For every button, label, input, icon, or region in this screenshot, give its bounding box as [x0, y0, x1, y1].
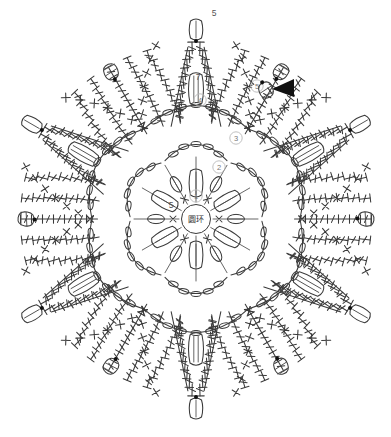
double-crochet: [58, 150, 72, 163]
double-crochet: [328, 215, 339, 223]
double-crochet: [47, 255, 60, 266]
double-crochet: [253, 103, 266, 117]
single-crochet: [140, 347, 148, 355]
double-crochet: [359, 235, 371, 245]
count-label-c_top: 5: [212, 8, 217, 18]
double-crochet: [307, 89, 321, 103]
single-crochet: [116, 109, 125, 118]
single-crochet: [322, 228, 329, 235]
chain-stitch: [236, 266, 247, 276]
single-crochet: [143, 69, 151, 77]
double-crochet: [110, 350, 123, 364]
single-crochet: [362, 163, 370, 171]
double-crochet: [348, 193, 360, 203]
tip-chain-loop: [348, 113, 373, 135]
round-label-text-1: 1: [194, 192, 198, 201]
star-point: [71, 278, 254, 419]
crochet-chart-canvas: 圆环12345575 圆环 ① ② ③ ④ ⑤ 5 7 5: [0, 0, 391, 437]
double-crochet: [286, 338, 299, 352]
single-crochet: [241, 69, 249, 77]
double-crochet: [59, 172, 72, 183]
chain-stitch: [231, 116, 242, 124]
double-crochet: [269, 350, 282, 364]
double-crochet: [121, 331, 134, 345]
single-crochet: [90, 330, 99, 339]
center-ring: 圆环: [182, 205, 211, 234]
double-crochet: [121, 93, 134, 107]
chain-stitch: [231, 313, 242, 321]
petal-chain-loop: [189, 333, 204, 366]
double-crochet: [54, 215, 65, 223]
chain-stitch: [126, 130, 137, 140]
single-crochet: [75, 221, 82, 228]
count-label-c_mid: 7: [196, 72, 201, 82]
chain-stitch: [236, 162, 247, 172]
single-crochet: [180, 195, 188, 203]
round-label-text-3: 3: [234, 134, 238, 143]
double-crochet: [269, 115, 282, 129]
double-crochet: [127, 103, 140, 117]
chain-stitch: [146, 162, 157, 172]
double-crochet: [127, 321, 140, 335]
double-crochet: [36, 255, 49, 266]
double-crochet: [21, 194, 33, 204]
single-crochet: [246, 320, 255, 329]
single-crochet: [61, 336, 70, 345]
single-crochet: [241, 361, 249, 369]
double-crochet: [343, 255, 356, 266]
double-crochet: [307, 335, 321, 349]
single-crochet: [143, 361, 151, 369]
single-crochet: [152, 42, 160, 50]
double-crochet: [269, 310, 282, 324]
double-crochet: [59, 254, 72, 265]
double-crochet: [109, 115, 122, 129]
single-crochet: [267, 109, 276, 118]
double-crochet: [332, 255, 345, 266]
single-crochet: [203, 195, 211, 203]
double-crochet: [343, 172, 356, 183]
double-crochet: [253, 321, 266, 335]
double-crochet: [82, 315, 96, 329]
double-crochet: [258, 331, 271, 345]
single-crochet: [322, 203, 329, 210]
single-crochet: [152, 389, 160, 397]
double-crochet: [105, 65, 118, 79]
double-crochet: [320, 150, 334, 163]
double-crochet: [275, 359, 288, 373]
slip-stitch: [194, 39, 198, 43]
double-crochet: [291, 348, 304, 362]
double-crochet: [36, 172, 49, 183]
double-crochet: [77, 234, 89, 244]
double-crochet: [116, 84, 129, 98]
single-crochet: [61, 93, 70, 102]
double-crochet: [302, 325, 316, 339]
chain-stitch: [255, 298, 266, 308]
double-crochet: [339, 215, 350, 223]
double-crochet: [77, 194, 89, 204]
single-crochet: [41, 185, 49, 193]
slip-stitch: [348, 306, 352, 310]
double-crochet: [47, 172, 60, 183]
single-crochet: [322, 93, 331, 102]
single-crochet: [293, 330, 302, 339]
double-crochet: [258, 93, 271, 107]
slip-stitch: [348, 128, 352, 132]
double-crochet: [296, 110, 310, 124]
single-crochet: [41, 245, 49, 253]
double-crochet: [264, 340, 277, 354]
double-crochet: [93, 338, 106, 352]
round-label-text-4: 4: [198, 96, 202, 105]
double-crochet: [314, 194, 326, 204]
single-crochet: [343, 185, 351, 193]
tip-chain-loop: [19, 113, 44, 135]
double-crochet: [332, 172, 345, 183]
single-crochet: [311, 210, 318, 217]
chain-stitch: [146, 266, 157, 276]
single-crochet: [75, 210, 82, 217]
double-crochet: [77, 325, 91, 339]
single-crochet: [232, 389, 240, 397]
double-crochet: [320, 172, 333, 183]
double-crochet: [302, 100, 316, 114]
chain-stitch: [126, 298, 137, 308]
double-crochet: [110, 74, 123, 88]
